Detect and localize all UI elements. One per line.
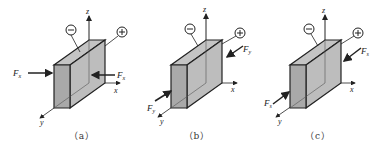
x-axis-label: x	[230, 85, 235, 94]
force-label-right-face: Fs	[360, 46, 370, 57]
z-axis-label: z	[85, 7, 90, 16]
z-axis-label: z	[202, 5, 207, 14]
box-front-face	[171, 65, 187, 108]
x-axis-label: x	[113, 86, 118, 95]
box-front-face	[54, 65, 70, 108]
force-label-front: Fy	[146, 103, 156, 114]
y-axis-label: y	[159, 117, 164, 126]
force-arrow-front	[155, 91, 171, 101]
panel-a: z x y Fx Fx	[12, 7, 127, 127]
y-axis-label: y	[277, 117, 282, 126]
force-arrow-back	[227, 46, 243, 57]
force-label-left: Fx	[12, 68, 22, 79]
caption-b: （b）	[184, 129, 211, 142]
piezo-diagram-figure: z x y Fx Fx z	[0, 0, 378, 153]
caption-c: （c）	[305, 129, 331, 142]
panel-c: z x y Fs Fs	[263, 6, 370, 126]
force-label-right: Fx	[116, 70, 126, 81]
caption-a: （a）	[69, 129, 95, 142]
force-arrow-right-face	[344, 48, 361, 61]
x-axis-label: x	[349, 85, 354, 94]
panel-b: z x y Fy Fy	[146, 5, 252, 126]
force-label-left-face: Fs	[263, 98, 273, 109]
force-label-back: Fy	[242, 44, 252, 55]
force-arrow-left-face	[273, 92, 289, 104]
z-axis-label: z	[321, 6, 326, 15]
box-front-face	[290, 65, 306, 108]
y-axis-label: y	[39, 118, 44, 127]
